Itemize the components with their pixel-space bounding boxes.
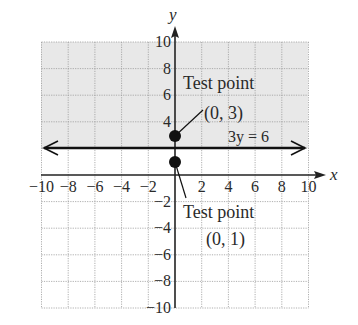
- y-tick-label: −10: [146, 299, 171, 316]
- test-point-0-1-coords: (0, 1): [206, 229, 245, 250]
- x-tick-label: −6: [86, 178, 103, 195]
- x-tick-label: −8: [60, 178, 77, 195]
- y-axis-label: y: [167, 5, 177, 24]
- y-tick-label: −6: [154, 246, 171, 263]
- test-point-0-1-title: Test point: [183, 202, 254, 222]
- y-tick-label: 4: [163, 113, 171, 130]
- x-tick-label: 8: [278, 178, 286, 195]
- x-axis-label: x: [329, 165, 338, 184]
- inequality-graph: x y −10−8−6−4−2246810 10864−2−4−6−8−10 3…: [0, 0, 358, 325]
- y-tick-label: 8: [163, 60, 171, 77]
- x-tick-label: −10: [29, 178, 54, 195]
- y-tick-label: −4: [154, 219, 171, 236]
- leader-line-0-1: [175, 162, 186, 198]
- test-point-0-3-coords: (0, 3): [204, 103, 243, 124]
- y-tick-label: 10: [155, 33, 171, 50]
- line-equation-label: 3y = 6: [228, 128, 269, 146]
- y-tick-label: −2: [154, 193, 171, 210]
- y-tick-label: −8: [154, 272, 171, 289]
- x-tick-label: 6: [251, 178, 259, 195]
- x-tick-label: 4: [224, 178, 232, 195]
- x-tick-label: 2: [198, 178, 206, 195]
- x-tick-label: 10: [301, 178, 317, 195]
- y-tick-label: 6: [163, 86, 171, 103]
- x-tick-labels: −10−8−6−4−2246810: [29, 178, 317, 195]
- x-tick-label: −4: [113, 178, 130, 195]
- test-point-0-3-title: Test point: [183, 73, 254, 93]
